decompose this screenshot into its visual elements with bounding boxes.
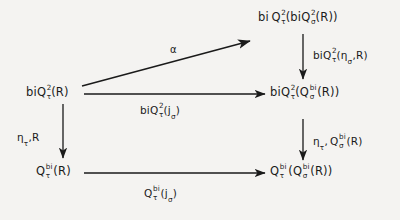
node-bottom-right: Qbiτ(Qbiσ(R)) — [270, 166, 332, 178]
sym-sigma: σ — [311, 22, 316, 23]
sym-eta: η — [313, 135, 320, 147]
sym-tau: τ — [280, 176, 285, 177]
sym-R: R — [32, 131, 40, 143]
sym-rparen: ) — [363, 49, 367, 61]
node-mid-right: biQ2τ(Qbiσ(R)) — [270, 87, 339, 99]
sym-Q: Q — [150, 104, 158, 116]
arrow-alpha — [82, 41, 250, 86]
sym-tau: τ — [159, 115, 164, 116]
sym-tau: τ — [24, 139, 29, 148]
sym-tau: τ — [47, 97, 52, 98]
sym-tau: τ — [281, 22, 286, 23]
sym-R: R — [56, 85, 64, 99]
sym-Q: Q — [37, 85, 46, 99]
sym-eta: η — [341, 49, 348, 61]
sym-rparen: ) — [66, 164, 71, 178]
edge-label-top-vertical: biQ2τ(ησ,R) — [313, 50, 368, 61]
sym-eta: η — [17, 131, 24, 143]
sym-rparen: ) — [176, 104, 180, 116]
sym-Q: Q — [300, 85, 309, 99]
sym-Q: Q — [301, 10, 310, 24]
sym-rparen: ) — [335, 85, 340, 99]
sym-tau: τ — [46, 176, 51, 177]
sym-Q: Q — [281, 85, 290, 99]
sym-bi: bi — [290, 10, 301, 24]
arrow-layer — [0, 0, 400, 220]
sym-Q: Q — [36, 164, 45, 178]
sym-bi: bi — [258, 10, 269, 24]
sym-sigma: σ — [348, 57, 353, 66]
sym-bi: bi — [313, 49, 323, 61]
sym-Q: Q — [271, 10, 280, 24]
node-mid-left: biQ2τ(R) — [26, 87, 69, 99]
sym-sigma: σ — [171, 112, 176, 121]
sym-Q: Q — [144, 187, 152, 199]
edge-label-alpha: α — [170, 45, 177, 55]
sym-bi: bi — [270, 85, 281, 99]
sym-rparen: ) — [64, 85, 69, 99]
node-top-right: bi Q2τ(biQ2σ(R)) — [258, 12, 338, 24]
sym-R: R — [58, 164, 66, 178]
sym-Q: Q — [330, 135, 338, 147]
sym-rparen: ) — [173, 187, 177, 199]
sym-tau: τ — [332, 60, 337, 61]
node-bottom-left: Qbiτ(R) — [36, 166, 71, 178]
sym-R: R — [322, 85, 330, 99]
sym-tau: τ — [320, 143, 325, 152]
sym-R: R — [315, 164, 323, 178]
sym-sigma: σ — [310, 97, 315, 98]
sym-sigma: σ — [303, 176, 308, 177]
sym-Q: Q — [270, 164, 279, 178]
edge-label-bottom-horizontal: Qbiτ(jσ) — [144, 188, 177, 199]
edge-label-right-vertical: ητ,Qbiσ(R) — [313, 136, 363, 147]
edge-label-mid-horizontal: biQ2τ(jσ) — [140, 105, 180, 116]
sym-tau: τ — [291, 97, 296, 98]
sym-comma: , — [324, 135, 328, 147]
sym-alpha: α — [170, 44, 177, 55]
edge-label-left-vertical: ητ,R — [17, 132, 39, 143]
sym-Q: Q — [323, 49, 331, 61]
sym-bi: bi — [140, 104, 150, 116]
sym-sigma: σ — [339, 146, 344, 147]
sym-rparen: ) — [358, 135, 362, 147]
sym-Q: Q — [293, 164, 302, 178]
commutative-diagram: bi Q2τ(biQ2σ(R)) biQ2τ(R) biQ2τ(Qbiσ(R))… — [0, 0, 400, 220]
sym-tau: τ — [153, 198, 158, 199]
sym-bi: bi — [26, 85, 37, 99]
sym-rparen: ) — [328, 164, 333, 178]
sym-rparen: ) — [333, 10, 338, 24]
sym-sigma: σ — [168, 195, 173, 204]
